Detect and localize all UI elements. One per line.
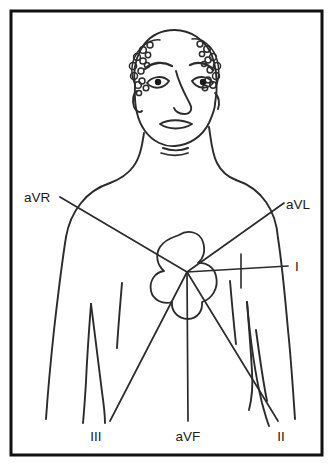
shoulder-left [66, 183, 110, 237]
pupil-right [200, 79, 206, 85]
shoulder-right [236, 180, 278, 238]
eyebrow-right [190, 63, 213, 70]
chin-crease [163, 148, 188, 150]
torso-side-right [230, 281, 236, 344]
jaw-outline [135, 86, 215, 146]
lead-axis-i [187, 266, 288, 272]
lead-axis-avr [60, 197, 187, 272]
pupil-left [155, 79, 161, 85]
lead-label-avr: aVR [24, 190, 51, 205]
figure-border [11, 11, 322, 455]
hand-right-detail-2 [256, 330, 267, 401]
hand-left-detail [91, 304, 105, 423]
ecg-lead-axis-figure: aVR aVL I III aVF II [0, 0, 332, 464]
neck-left [110, 133, 144, 183]
lead-label-ii: II [277, 429, 285, 444]
torso-side-left [117, 283, 122, 348]
nose-outline [174, 71, 191, 114]
lead-label-avf: aVF [176, 429, 201, 444]
neck-right [209, 127, 236, 180]
arm-right-outer [278, 238, 295, 419]
arm-left-inner [83, 304, 91, 423]
arm-left-outer [46, 237, 66, 419]
lead-label-avl: aVL [286, 197, 311, 212]
lead-axis-avf [187, 272, 188, 421]
lead-label-iii: III [90, 429, 101, 444]
collarbone-line [161, 153, 188, 155]
figure-canvas: aVR aVL I III aVF II [0, 0, 332, 464]
lead-axis-ii [187, 272, 278, 421]
lead-label-i: I [295, 259, 299, 274]
mouth-outline [160, 120, 192, 128]
